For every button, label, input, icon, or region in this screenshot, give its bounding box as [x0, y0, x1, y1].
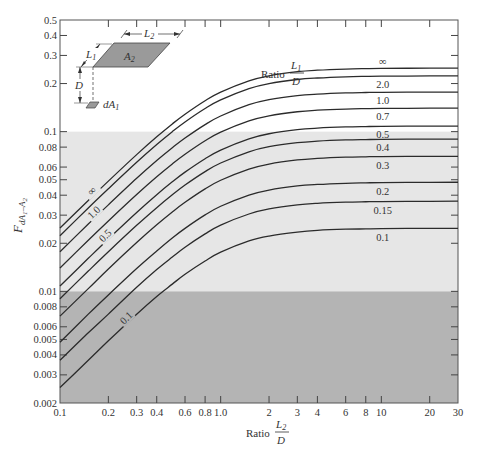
inset-geometry-diagram: A2 L2 L1 D dA1 [74, 27, 183, 112]
curve-label: 0.7 [376, 111, 389, 122]
curve-label: 0.3 [376, 160, 389, 171]
svg-text:dA1: dA1 [103, 98, 119, 112]
curve-label: 0.5 [376, 129, 389, 140]
y-tick-label: 0.05 [39, 174, 57, 185]
y-tick-label: 0.4 [44, 30, 58, 41]
curve-label: 0.1 [376, 232, 389, 243]
x-tick-label: 0.1 [53, 407, 66, 418]
y-tick-label: 0.003 [33, 369, 57, 380]
curve-label: 0.2 [376, 186, 389, 197]
y-tick-label: 0.02 [39, 238, 57, 249]
x-axis-title: Ratio L2 D [246, 418, 289, 446]
x-tick-label: 20 [424, 407, 435, 418]
x-tick-label: 10 [376, 407, 387, 418]
y-tick-label: 0.006 [33, 321, 57, 332]
svg-text:FdA1–A2: FdA1–A2 [10, 198, 29, 234]
x-tick-label: 8 [363, 407, 368, 418]
x-tick-label: 4 [315, 407, 321, 418]
y-axis-title: FdA1–A2 [10, 198, 29, 234]
y-tick-label: 0.03 [39, 210, 57, 221]
x-axis-title-den: D [276, 434, 285, 446]
legend-title-prefix: Ratio [261, 68, 285, 80]
x-tick-label: 6 [343, 407, 348, 418]
curve-right-labels: ∞2.01.00.70.50.40.30.20.150.1 [374, 56, 392, 242]
x-tick-label: 2 [266, 407, 271, 418]
y-tick-label: 0.2 [44, 78, 57, 89]
x-tick-label: 3 [295, 407, 300, 418]
legend-title-den: D [291, 75, 300, 87]
curve-label: 2.0 [376, 79, 389, 90]
x-axis-title-prefix: Ratio [246, 427, 270, 439]
y-tick-label: 0.004 [33, 349, 57, 360]
y-tick-label: 0.06 [39, 162, 57, 173]
y-tick-label: 0.04 [39, 190, 58, 201]
curve-label: 0.4 [376, 142, 390, 153]
y-tick-label: 0.008 [33, 301, 57, 312]
y-tick-label: 0.5 [44, 15, 57, 26]
x-tick-label: 30 [453, 407, 464, 418]
x-tick-label: 0.8 [199, 407, 212, 418]
svg-text:D: D [74, 79, 83, 91]
x-axis-title-num: L2 [275, 418, 286, 432]
legend-title-num: L1 [290, 59, 301, 73]
y-tick-label: 0.002 [33, 398, 57, 409]
x-tick-label: 0.4 [150, 407, 164, 418]
curve-label: 0.15 [374, 205, 392, 216]
y-tick-label: 0.005 [33, 334, 57, 345]
x-tick-label: 0.2 [102, 407, 115, 418]
view-factor-chart: 0.10.20.30.40.60.81.023468102030 0.0020.… [0, 0, 478, 460]
y-tick-label: 0.08 [39, 142, 57, 153]
y-tick-label: 0.1 [44, 126, 57, 137]
y-tick-label: 0.3 [44, 50, 57, 61]
legend-title: Ratio L1 D [261, 59, 304, 87]
curve-label: ∞ [379, 56, 387, 67]
shaded-bands [60, 132, 458, 403]
curve-label: 1.0 [376, 95, 389, 106]
x-tick-label: 0.6 [178, 407, 191, 418]
x-tick-label: 1.0 [214, 407, 227, 418]
shaded-band [60, 291, 458, 403]
x-tick-label: 0.3 [130, 407, 143, 418]
y-tick-label: 0.01 [39, 286, 57, 297]
